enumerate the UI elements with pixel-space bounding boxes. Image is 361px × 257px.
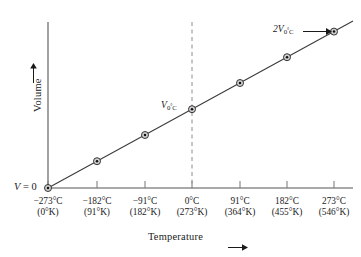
x-tick-label-6: 273°C (546°K) — [319, 196, 350, 219]
x-tick-label-3-kelvin: (273°K) — [177, 207, 208, 218]
x-axis-arrow-icon — [228, 237, 248, 244]
x-tick-label-0-kelvin: (0°K) — [33, 207, 62, 218]
x-tick-label-3-celsius: 0°C — [177, 196, 208, 207]
x-tick-label-2-celsius: −91°C — [130, 196, 161, 207]
volume-doubled-label: 2V0°C — [273, 24, 293, 35]
volume-zero-equals: = — [20, 181, 31, 192]
x-tick-label-4-kelvin: (364°K) — [225, 207, 256, 218]
x-tick-label-1-kelvin: (91°K) — [82, 207, 111, 218]
x-tick-label-1-celsius: −182°C — [82, 196, 111, 207]
volume-at-zero-celsius-label: V0°C — [161, 100, 177, 111]
x-tick-label-4-celsius: 91°C — [225, 196, 256, 207]
x-tick-label-1: −182°C (91°K) — [82, 196, 111, 219]
volume-zero-value: 0 — [31, 181, 36, 192]
x-tick-label-4: 91°C (364°K) — [225, 196, 256, 219]
data-point-4 — [237, 80, 244, 87]
x-tick-label-2-kelvin: (182°K) — [130, 207, 161, 218]
x-tick-label-0-celsius: −273°C — [33, 196, 62, 207]
x-tick-label-6-kelvin: (546°K) — [319, 207, 350, 218]
x-tick-label-5-kelvin: (455°K) — [272, 207, 303, 218]
x-tick-label-5-celsius: 182°C — [272, 196, 303, 207]
x-tick-label-3: 0°C (273°K) — [177, 196, 208, 219]
data-point-5 — [284, 54, 291, 61]
x-tick-label-2: −91°C (182°K) — [130, 196, 161, 219]
data-point-3 — [189, 106, 196, 113]
x-axis-title: Temperature — [148, 232, 203, 242]
data-point-2 — [142, 132, 149, 139]
v0c-subscript: 0°C — [167, 104, 177, 111]
volume-zero-label: V = 0 — [14, 182, 37, 192]
data-point-markers — [45, 28, 338, 191]
x-tick-label-0: −273°C (0°K) — [33, 196, 62, 219]
v0c-sub-unit: C — [172, 104, 176, 111]
x-axis-ticks — [48, 181, 334, 188]
y-axis-title: Volume — [33, 60, 43, 130]
chart-figure: Volume Temperature V = 0 V0°C 2V0°C −273… — [0, 0, 361, 257]
v2-sub-unit: C — [289, 28, 293, 35]
data-point-0 — [45, 185, 52, 192]
volume-doubled-annotation-arrow — [303, 28, 332, 35]
v2-subscript: 0°C — [284, 28, 294, 35]
x-tick-label-5: 182°C (455°K) — [272, 196, 303, 219]
x-tick-label-6-celsius: 273°C — [319, 196, 350, 207]
data-point-1 — [94, 158, 101, 165]
